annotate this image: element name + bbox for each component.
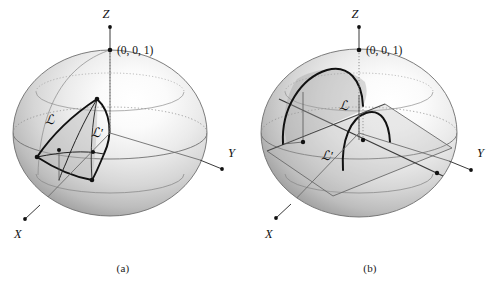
panel-a: Z Y X (0, 0, 1) ℒ ℒ′ (a) xyxy=(0,0,246,295)
caption-a: (a) xyxy=(0,262,246,274)
sphere-diagram-b: Z Y X (0, 0, 1) ℒ ℒ′ xyxy=(247,0,493,268)
y-axis-tip-a xyxy=(220,167,224,171)
sphere-diagram-a: Z Y X (0, 0, 1) ℒ ℒ′ xyxy=(0,0,246,268)
curve-lprime-label-b: ℒ′ xyxy=(321,148,333,163)
figure-two-spheres: Z Y X (0, 0, 1) ℒ ℒ′ (a) xyxy=(0,0,493,295)
panel-b: Z Y X (0, 0, 1) ℒ ℒ′ (b) xyxy=(247,0,493,295)
vertex-bottom-a xyxy=(90,178,95,183)
x-axis-label-a: X xyxy=(13,227,23,241)
y-axis-tip-b xyxy=(469,168,473,172)
curve-lprime-label-a: ℒ′ xyxy=(91,125,103,140)
y-axis-label-b: Y xyxy=(477,146,486,160)
z-axis-label-a: Z xyxy=(103,7,111,21)
plane-point-centre-b xyxy=(361,138,365,142)
caption-b: (b) xyxy=(247,262,493,274)
x-axis-b xyxy=(276,204,291,218)
x-axis-label-b: X xyxy=(264,227,274,241)
plane-point-left-b xyxy=(301,140,305,144)
vertex-mid-a xyxy=(57,148,61,152)
x-axis-tip-b xyxy=(274,216,278,220)
curve-l-label-b: ℒ xyxy=(339,98,349,113)
z-axis-tip-b xyxy=(357,25,361,29)
north-pole-point-b xyxy=(357,48,362,53)
great-circle-point-b xyxy=(435,171,439,175)
north-pole-point-a xyxy=(108,48,113,53)
north-pole-label-b: (0, 0, 1) xyxy=(366,44,403,57)
y-axis-label-a: Y xyxy=(228,146,237,160)
vertex-left-a xyxy=(35,155,40,160)
x-axis-tip-a xyxy=(23,217,27,221)
y-axis-a xyxy=(200,160,222,169)
north-pole-label-a: (0, 0, 1) xyxy=(117,44,154,57)
x-axis-a xyxy=(25,205,40,219)
vertex-inner-a xyxy=(91,150,95,154)
vertex-top-a xyxy=(95,97,100,102)
z-axis-tip-a xyxy=(108,25,112,29)
z-axis-label-b: Z xyxy=(352,7,360,21)
curve-l-label-a: ℒ xyxy=(45,112,55,127)
y-axis-b xyxy=(449,161,471,170)
